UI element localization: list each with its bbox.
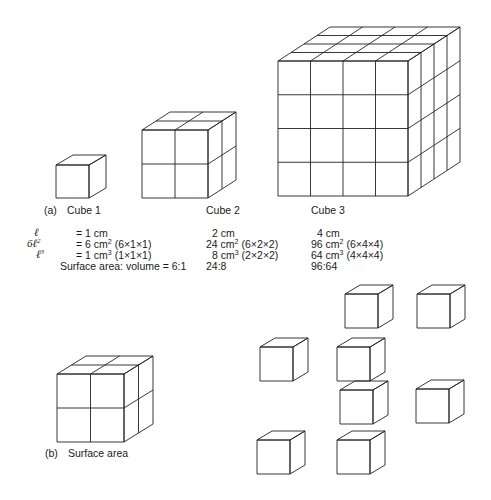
- ratio-label: Surface area: volume = 6:1: [60, 261, 186, 272]
- symbol-volume: ℓ3: [36, 249, 44, 260]
- separated-cube-6: [416, 380, 464, 423]
- separated-cube-3: [260, 338, 308, 381]
- separated-cube-4: [337, 338, 385, 381]
- cube-b-assembled: [57, 356, 153, 442]
- cube-1: [56, 155, 106, 198]
- panel-b-label: Surface area: [68, 448, 128, 459]
- cube-3: [278, 27, 460, 196]
- separated-cube-5: [340, 381, 388, 424]
- cube-2-label: Cube 2: [206, 205, 240, 216]
- panel-a-tag: (a): [44, 205, 57, 216]
- cube-3-label: Cube 3: [311, 205, 345, 216]
- separated-cube-2: [417, 285, 465, 328]
- separated-cube-7: [257, 431, 305, 474]
- cube-2: [142, 112, 236, 198]
- cube-2-ratio: 24:8: [206, 261, 226, 272]
- panel-b-tag: (b): [45, 448, 58, 459]
- separated-cube-8: [337, 431, 385, 474]
- separated-cube-1: [345, 285, 393, 328]
- cube-1-label: Cube 1: [67, 205, 101, 216]
- cube-3-ratio: 96:64: [311, 261, 337, 272]
